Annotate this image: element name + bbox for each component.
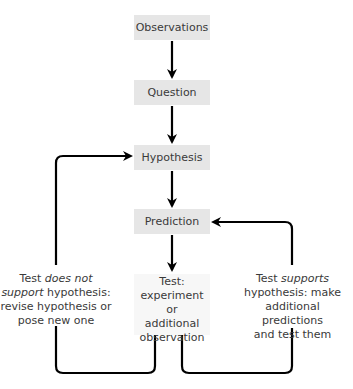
node-observations: Observations xyxy=(134,15,210,40)
label-line2-rest: hypothesis: xyxy=(44,286,111,299)
label-prefix: Test xyxy=(20,272,45,285)
node-question: Question xyxy=(134,80,210,105)
test-line-1: Test: xyxy=(134,275,210,289)
test-line-4: observation xyxy=(134,331,210,345)
node-prediction: Prediction xyxy=(134,209,210,234)
label-prefix: Test xyxy=(256,272,281,285)
test-line-3: additional xyxy=(134,317,210,331)
label-line3: revise hypothesis or xyxy=(0,300,112,314)
loop-supports-top xyxy=(213,222,292,265)
label-test-supports: Test supports hypothesis: make additiona… xyxy=(235,272,350,342)
label-emph-2: support xyxy=(1,286,43,299)
node-test: Test: experiment or additional observati… xyxy=(134,274,210,335)
label-line4: and test them xyxy=(235,328,350,342)
node-hypothesis-label: Hypothesis xyxy=(141,151,202,164)
label-emph: does not xyxy=(45,272,93,285)
label-line2: hypothesis: make xyxy=(235,286,350,300)
loop-not-support-top xyxy=(56,156,131,265)
label-line4: pose new one xyxy=(0,314,112,328)
label-test-does-not-support: Test does not support hypothesis: revise… xyxy=(0,272,112,328)
label-emph: supports xyxy=(281,272,329,285)
node-prediction-label: Prediction xyxy=(145,215,200,228)
label-line3: additional predictions xyxy=(235,300,350,328)
node-hypothesis: Hypothesis xyxy=(134,145,210,170)
test-line-2: experiment or xyxy=(134,289,210,317)
node-question-label: Question xyxy=(147,86,196,99)
node-observations-label: Observations xyxy=(136,21,209,34)
